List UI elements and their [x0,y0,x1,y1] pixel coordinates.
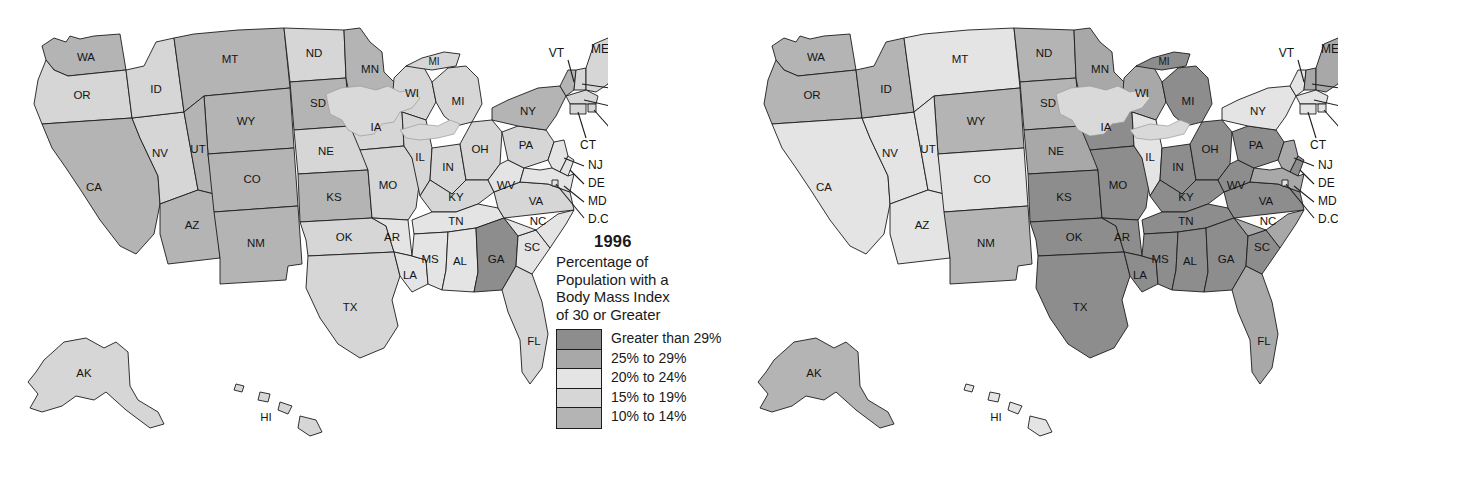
legend-title-line-2: Population with a [556,271,726,289]
state-label-wa: WA [77,51,95,63]
state-label-sc: SC [524,241,540,253]
state-label-mn: MN [1091,63,1109,75]
state-ak [758,338,894,428]
state-label-ar: AR [1114,231,1130,243]
state-label-hi: HI [990,411,1002,423]
state-label-sd: SD [1040,97,1056,109]
state-label-or: OR [73,89,90,101]
state-label-ne: NE [1048,145,1064,157]
callout-label-dc: D.C. [1318,212,1338,226]
state-label-tx: TX [1073,301,1088,313]
state-fl [1232,266,1278,384]
state-label-ca: CA [816,181,832,193]
us-map-1996-svg: WAORCANVIDMTWYUTAZCONMNDSDNEKSOKTXMNIAMO… [8,8,608,474]
leader-line-ct [578,112,586,138]
legend-year-1996: 1996 [594,232,726,251]
legend-1996: 1996 Percentage of Population with a Bod… [556,232,726,429]
state-label-pa: PA [1249,139,1264,151]
legend-swatch-20-24 [557,369,601,389]
state-label-ak: AK [76,367,92,379]
state-label-mo: MO [379,179,398,191]
state-label-ms: MS [421,253,439,265]
state-label-ok: OK [336,231,353,243]
callout-label-de: DE [1318,176,1335,190]
state-label-in: IN [442,161,454,173]
state-label-nd: ND [306,47,323,59]
state-label-nm: NM [247,237,265,249]
state-label-sc: SC [1254,241,1270,253]
state-label-nv: NV [882,147,898,159]
legend-title-line-1: Percentage of [556,253,726,271]
legend-label-20-24: 20% to 24% [611,368,722,388]
state-label-mo: MO [1109,179,1128,191]
legend-swatches-1996 [556,329,602,429]
state-label-il: IL [415,151,425,163]
state-label-nd: ND [1036,47,1053,59]
state-label-nc: NC [1260,215,1277,227]
state-label-mn: MN [361,63,379,75]
state-label-ky: KY [1178,191,1194,203]
state-label-oh: OH [1201,143,1218,155]
state-label-wy: WY [237,115,256,127]
legend-swatch-25-29 [557,350,601,370]
legend-label-25-29: 25% to 29% [611,349,722,369]
state-label-mi: MI [1182,95,1195,107]
state-label-ga: GA [488,253,505,265]
state-label-la: LA [1133,269,1147,281]
state-label-ks: KS [326,191,342,203]
state-label-az: AZ [185,219,200,231]
state-label-ut: UT [920,143,935,155]
callout-label-vt: VT [1279,46,1295,60]
callout-label-nj: NJ [1318,158,1333,172]
state-label-al: AL [453,255,468,267]
state-label-wv: WV [1227,179,1246,191]
state-fl [502,266,548,384]
state-nh [1304,68,1316,90]
state-hi [964,384,1052,436]
leader-line-ct [1308,112,1316,138]
state-label-tn: TN [1178,215,1193,227]
state-label-la: LA [403,269,417,281]
legend-swatch-gt29 [557,330,601,350]
legend-title-line-3: Body Mass Index [556,288,726,306]
legend-swatch-10-14 [557,408,601,428]
callout-label-md: MD [1318,194,1337,208]
state-label-mt: MT [222,53,239,65]
state-hi [234,384,322,436]
legend-label-gt29: Greater than 29% [611,329,722,349]
state-label-ms: MS [1151,253,1169,265]
state-label-ca: CA [86,181,102,193]
state-label-ak: AK [806,367,822,379]
state-ak [28,338,164,428]
callout-label-md: MD [588,194,607,208]
state-label-id: ID [150,83,162,95]
state-label-ut: UT [190,143,205,155]
state-label-ne: NE [318,145,334,157]
legend-labels-1996: Greater than 29% 25% to 29% 20% to 24% 1… [611,329,722,429]
legend-title-line-4: of 30 or Greater [556,306,726,324]
legend-label-15-19: 15% to 19% [611,388,722,408]
legend-title-1996: Percentage of Population with a Body Mas… [556,253,726,323]
figure-root: WAORCANVIDMTWYUTAZCONMNDSDNEKSOKTXMNIAMO… [0,0,1460,480]
state-nh [574,68,586,90]
state-label-ok: OK [1066,231,1083,243]
leader-line-ri [1324,110,1338,128]
state-label-ks: KS [1056,191,1072,203]
legend-swatch-15-19 [557,389,601,409]
state-label-wi: WI [1135,87,1149,99]
state-label-nm: NM [977,237,995,249]
us-map-2010-svg: WAORCANVIDMTWYUTAZCONMNDSDNEKSOKTXMNIAMO… [738,8,1338,474]
state-label-az: AZ [915,219,930,231]
callout-label-me: ME [591,42,608,56]
state-label-co: CO [243,173,260,185]
state-label-va: VA [529,195,544,207]
state-label-ky: KY [448,191,464,203]
state-label-al: AL [1183,255,1198,267]
callout-label-ct: CT [580,138,597,152]
callout-label-ct: CT [1310,138,1327,152]
state-label-ny: NY [1250,105,1266,117]
callout-label-nj: NJ [588,158,603,172]
state-label-or: OR [803,89,820,101]
state-label-wa: WA [807,51,825,63]
state-label-nv: NV [152,147,168,159]
